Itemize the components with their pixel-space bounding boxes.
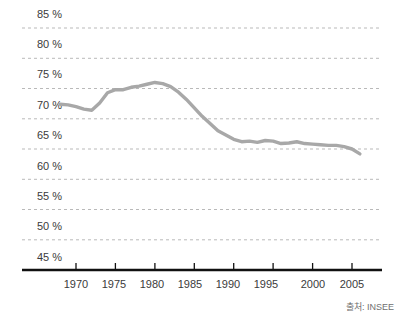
plot-area xyxy=(0,0,402,325)
chart-container: 85 % 80 % 75 % 70 % 65 % 60 % 55 % 50 % … xyxy=(0,0,402,325)
x-axis-ticks xyxy=(76,263,352,269)
gridlines xyxy=(22,28,382,240)
source-note: 출처: INSEE xyxy=(346,300,394,313)
data-series-line xyxy=(60,82,360,153)
